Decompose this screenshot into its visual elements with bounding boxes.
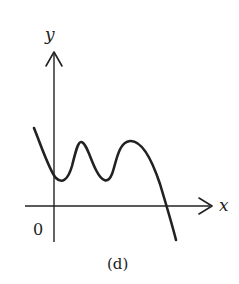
- graph-figure: y x 0 (d): [0, 0, 239, 284]
- figure-caption: (d): [107, 255, 128, 273]
- x-axis-label: x: [219, 195, 229, 215]
- origin-label: 0: [33, 220, 43, 239]
- y-axis-label: y: [44, 24, 55, 44]
- function-curve: [34, 128, 176, 240]
